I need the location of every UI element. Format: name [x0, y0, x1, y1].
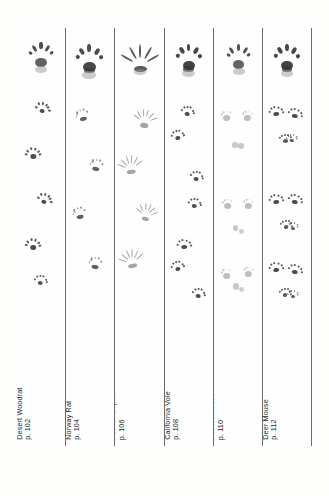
toe-pad — [269, 199, 272, 201]
track-column-bottas-pocket-gopher: Botta'sPocket Gopherp. 106 — [114, 28, 163, 446]
toe-pad — [251, 113, 253, 115]
toe-pad — [223, 269, 225, 271]
toe-pad — [279, 137, 281, 139]
toe-pad — [226, 110, 228, 112]
toe-pad — [37, 196, 40, 199]
toe-pad — [201, 178, 203, 180]
toe-pad — [299, 112, 302, 115]
page-reference: p. 108 — [172, 391, 180, 440]
toe-pad — [246, 267, 248, 269]
fore-print-dot — [238, 143, 244, 149]
toe-pad — [282, 267, 285, 269]
toe-pad — [199, 204, 201, 206]
toe-pad — [33, 278, 36, 280]
track-field-norway-rat — [66, 28, 114, 283]
toe-pad — [76, 207, 78, 209]
toe-pad — [82, 109, 84, 111]
toe-pad — [181, 239, 183, 242]
species-label-text: Deer Mousep. 112 — [262, 399, 279, 440]
toe-pad — [40, 193, 43, 196]
toe-pad — [39, 275, 41, 277]
toe-pad — [175, 130, 177, 133]
toe-pad — [297, 109, 300, 112]
animal-track-print — [238, 228, 245, 235]
toe-pad — [294, 264, 296, 266]
toe-pad — [187, 201, 190, 203]
toe-pad — [79, 109, 81, 111]
toe-pad — [295, 54, 300, 59]
label-area-california-pocket-mouse: CaliforniaPocket Mousep. 110 — [214, 283, 262, 446]
palm-pad — [223, 203, 231, 209]
toe-pad — [27, 240, 30, 243]
toe-pad — [252, 269, 254, 271]
toe-pad — [285, 44, 289, 51]
palm-pad — [274, 268, 280, 273]
toe-pad — [248, 111, 250, 113]
toe-pad — [229, 112, 231, 114]
toe-pad — [247, 53, 252, 58]
palm-pad — [41, 199, 48, 205]
toe-pad — [223, 111, 225, 113]
toe-pad — [192, 171, 195, 174]
palm-pad — [30, 245, 36, 250]
palm-pad — [181, 245, 187, 250]
toe-pad — [229, 270, 231, 272]
species-label-deer-mouse: Deer Mousep. 112 — [270, 399, 287, 440]
toe-pad — [192, 112, 194, 114]
toe-pad — [188, 241, 191, 244]
toe-pad — [178, 47, 185, 55]
toe-pad — [245, 111, 247, 113]
print-smudge — [82, 71, 96, 78]
track-column-norway-rat: Norway Ratp. 104 — [65, 28, 114, 446]
palm-pad — [79, 116, 86, 121]
palm-pad — [290, 139, 294, 142]
toe-pad — [38, 241, 41, 244]
toe-pad — [197, 54, 202, 59]
animal-track-print — [119, 155, 143, 179]
toe-pad — [221, 114, 223, 116]
claw-mark — [128, 46, 137, 60]
toe-pad — [185, 239, 187, 242]
animal-track-print — [240, 109, 254, 123]
track-column-california-pocket-mouse: CaliforniaPocket Mousep. 110 — [213, 28, 262, 446]
toe-pad — [243, 269, 245, 271]
track-field-deer-mouse — [263, 28, 311, 283]
toe-pad — [281, 221, 283, 224]
toe-pad — [300, 115, 302, 117]
toe-pad — [279, 223, 281, 225]
animal-track-print — [286, 105, 304, 123]
toe-pad — [276, 47, 283, 55]
animal-track-print — [267, 103, 285, 121]
animal-track-print — [134, 109, 157, 132]
animal-track-print — [186, 195, 202, 211]
palm-pad — [244, 203, 252, 209]
animal-track-print — [135, 202, 158, 225]
species-label-norway-rat: Norway Ratp. 104 — [73, 401, 90, 440]
toe-pad — [269, 111, 272, 113]
toe-pad — [189, 174, 192, 177]
animal-track-print — [286, 220, 299, 233]
animal-track-print — [169, 127, 186, 144]
claw-mark — [145, 203, 146, 211]
toe-pad — [42, 275, 45, 278]
palm-pad — [38, 108, 44, 113]
palm-pad — [92, 167, 99, 172]
toe-pad — [243, 201, 245, 203]
animal-track-print — [119, 248, 144, 273]
toe-pad — [282, 199, 285, 201]
animal-track-print — [286, 261, 304, 279]
animal-track-print — [72, 44, 106, 78]
animal-track-print — [220, 197, 234, 211]
animal-track-print — [87, 255, 104, 272]
toe-pad — [297, 227, 299, 229]
toe-pad — [34, 105, 37, 108]
toe-pad — [97, 258, 99, 260]
species-label-text: Desert Woodratp. 102 — [17, 388, 33, 440]
toe-pad — [274, 106, 276, 109]
palm-pad — [291, 114, 297, 119]
species-label-california-pocket-mouse: CaliforniaPocket Mousep. 110 — [213, 393, 238, 440]
species-label-text: Norway Ratp. 104 — [65, 401, 82, 440]
track-column-deer-mouse: Deer Mousep. 112 — [262, 28, 312, 446]
print-smudge — [35, 66, 47, 73]
animal-track-print — [168, 258, 185, 275]
